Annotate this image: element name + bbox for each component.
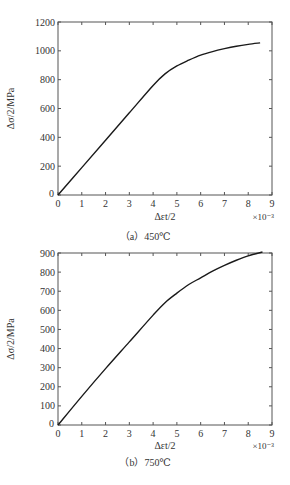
x-tick-label: 3 <box>127 428 132 439</box>
y-tick-label: 200 <box>40 381 55 392</box>
x-axis-label: Δεt/2 <box>154 211 175 222</box>
y-tick-label: 400 <box>40 343 55 354</box>
x-tick-label: 2 <box>103 198 108 209</box>
y-tick-label: 800 <box>40 267 55 278</box>
x-tick-label: 5 <box>174 428 179 439</box>
x-tick-label: 5 <box>174 198 179 209</box>
x-tick-label: 7 <box>222 198 227 209</box>
plot-frame-1 <box>58 22 272 195</box>
x-tick-label: 1 <box>79 198 84 209</box>
figure-caption: （a）450℃ <box>120 231 171 242</box>
y-tick-label: 500 <box>40 324 55 335</box>
y-tick-label: 600 <box>40 305 55 316</box>
x-tick-label: 7 <box>222 428 227 439</box>
x-tick-label: 3 <box>127 198 132 209</box>
x-tick-label: 6 <box>198 428 203 439</box>
data-series-line <box>58 252 262 425</box>
y-tick-label: 0 <box>49 188 54 199</box>
y-tick-label: 400 <box>40 132 55 143</box>
y-tick-label: 1000 <box>35 45 55 56</box>
x-tick-label: 9 <box>270 198 275 209</box>
y-tick-label: 800 <box>40 74 55 85</box>
y-axis-label: Δσ/2/MPa <box>5 87 16 129</box>
plot-frame-2 <box>58 253 272 425</box>
y-axis-label: Δσ/2/MPa <box>5 318 16 360</box>
x-axis-label: Δεt/2 <box>154 440 175 451</box>
y-tick-label: 200 <box>40 161 55 172</box>
x-tick-label: 1 <box>79 428 84 439</box>
x-tick-label: 0 <box>56 428 61 439</box>
y-tick-label: 0 <box>49 418 54 429</box>
figure: 0123456789020040060080010001200Δσ/2/MPaΔ… <box>0 0 290 485</box>
x-axis-multiplier: ×10⁻³ <box>252 212 274 222</box>
y-tick-label: 900 <box>40 248 55 259</box>
x-tick-label: 4 <box>151 198 156 209</box>
x-tick-label: 8 <box>246 198 251 209</box>
data-series-line <box>58 43 260 195</box>
x-tick-label: 8 <box>246 428 251 439</box>
y-tick-label: 1200 <box>35 17 55 28</box>
x-tick-label: 9 <box>270 428 275 439</box>
x-tick-label: 2 <box>103 428 108 439</box>
figure-caption: （b）750℃ <box>119 457 170 468</box>
y-tick-label: 600 <box>40 103 55 114</box>
y-tick-label: 700 <box>40 286 55 297</box>
x-axis-multiplier: ×10⁻³ <box>252 441 274 451</box>
x-tick-label: 6 <box>198 198 203 209</box>
y-tick-label: 100 <box>40 400 55 411</box>
x-tick-label: 0 <box>56 198 61 209</box>
x-tick-label: 4 <box>151 428 156 439</box>
y-tick-label: 300 <box>40 362 55 373</box>
